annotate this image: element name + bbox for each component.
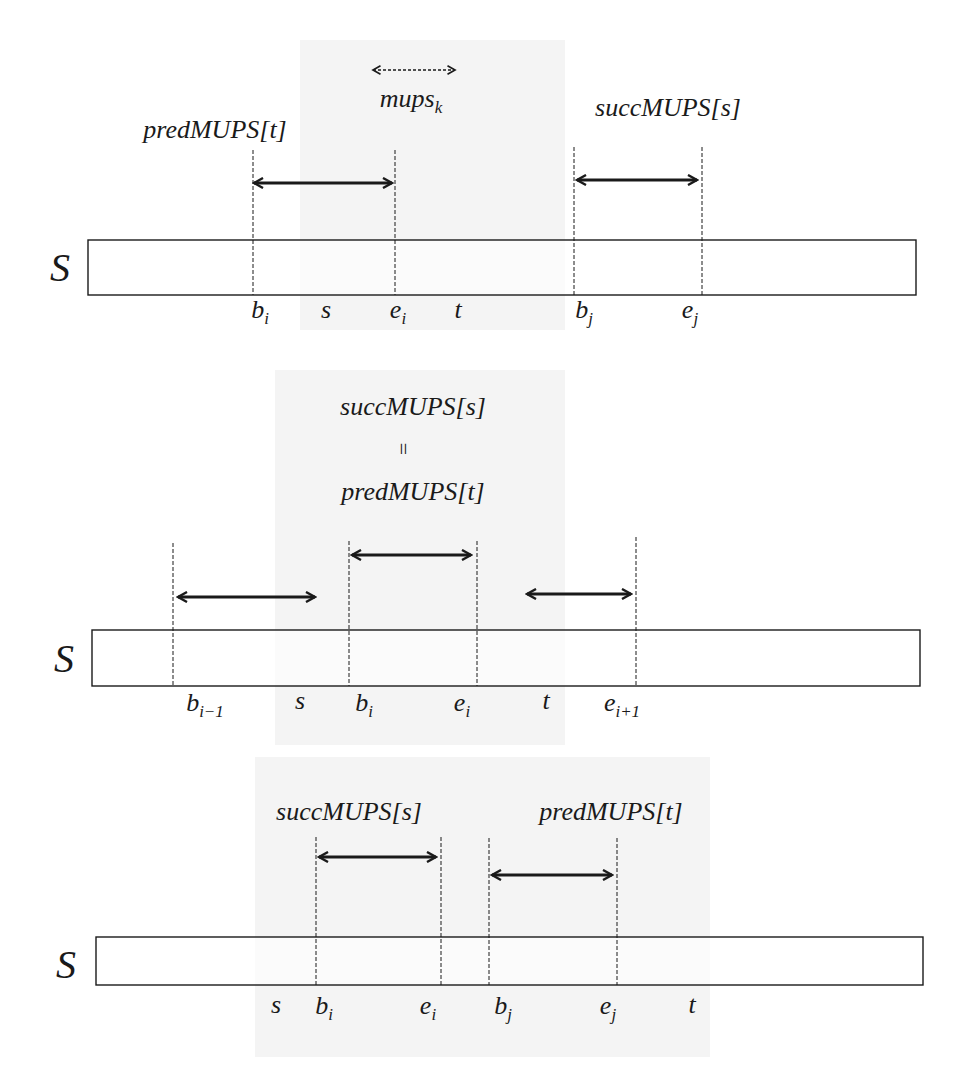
position-label-subscript: i <box>401 309 406 328</box>
position-label: t <box>688 992 695 1018</box>
position-label-text: e <box>604 688 616 717</box>
position-label-text: s <box>295 686 305 715</box>
position-label: ei+1 <box>604 690 640 720</box>
position-label-subscript: j <box>611 1005 616 1024</box>
position-label-text: b <box>315 991 328 1020</box>
position-label: bj <box>494 993 512 1023</box>
position-label-subscript: i <box>264 309 269 328</box>
interval-label: predMUPS[t] <box>539 799 682 825</box>
position-label-text: b <box>575 295 588 324</box>
position-label-subscript: i+1 <box>615 702 640 721</box>
position-label-text: b <box>494 991 507 1020</box>
string-s-label-text: S <box>50 245 70 290</box>
interval-label-text: predMUPS[t] <box>539 797 682 826</box>
position-label-text: e <box>682 295 694 324</box>
position-label-text: e <box>600 991 612 1020</box>
position-label-text: b <box>251 295 264 324</box>
position-label-text: b <box>186 688 199 717</box>
position-label: t <box>542 688 549 714</box>
position-label-subscript: i <box>465 702 470 721</box>
interval-label: predMUPS[t] <box>341 479 484 505</box>
position-label-text: s <box>321 295 331 324</box>
interval-label-text: predMUPS[t] <box>341 477 484 506</box>
position-label: bi <box>251 297 269 327</box>
position-label-text: s <box>271 990 281 1019</box>
figure: SpredMUPS[t]mupsksuccMUPS[s]biseitbjejSs… <box>0 0 974 1081</box>
position-label-subscript: i <box>328 1005 333 1024</box>
panel-2 <box>92 537 920 686</box>
position-label: bj <box>575 297 593 327</box>
string-s-label: S <box>50 248 70 288</box>
position-label-subscript: j <box>588 309 593 328</box>
position-label-subscript: j <box>693 309 698 328</box>
interval-label: predMUPS[t] <box>143 117 286 143</box>
position-label-text: t <box>542 686 549 715</box>
string-s-label-text: S <box>56 942 76 987</box>
position-label-text: b <box>355 688 368 717</box>
interval-label: succMUPS[s] <box>340 394 486 420</box>
position-label: ej <box>682 297 698 327</box>
string-bar <box>96 937 923 985</box>
position-label: s <box>271 992 281 1018</box>
string-s-label: S <box>56 945 76 985</box>
position-label: ei <box>390 297 406 327</box>
position-label-subscript: i <box>431 1005 436 1024</box>
interval-label: succMUPS[s] <box>595 95 741 121</box>
interval-label-text: predMUPS[t] <box>143 115 286 144</box>
position-label-text: t <box>688 990 695 1019</box>
position-label: ej <box>600 993 616 1023</box>
position-label-subscript: j <box>507 1005 512 1024</box>
position-label: bi <box>315 993 333 1023</box>
position-label-subscript: i <box>368 702 373 721</box>
interval-label-text: mups <box>380 84 435 113</box>
interval-label: mupsk <box>380 86 442 116</box>
position-label: bi <box>355 690 373 720</box>
string-bar <box>88 240 916 295</box>
interval-label-text: succMUPS[s] <box>276 797 422 826</box>
interval-label-text: succMUPS[s] <box>340 392 486 421</box>
position-label-text: e <box>454 688 466 717</box>
string-s-label: S <box>54 639 74 679</box>
panel-1 <box>88 70 916 295</box>
position-label: t <box>454 297 461 323</box>
position-label-text: t <box>454 295 461 324</box>
position-label-text: e <box>390 295 402 324</box>
position-label-subscript: i−1 <box>199 702 224 721</box>
diagram-lines <box>0 0 974 1081</box>
equals-sign: = <box>392 443 414 455</box>
position-label: bi−1 <box>186 690 224 720</box>
interval-label-text: succMUPS[s] <box>595 93 741 122</box>
interval-label-subscript: k <box>435 98 443 117</box>
position-label-text: e <box>420 991 432 1020</box>
string-bar <box>92 630 920 686</box>
position-label: ei <box>420 993 436 1023</box>
position-label: s <box>321 297 331 323</box>
panel-3 <box>96 837 923 985</box>
position-label: ei <box>454 690 470 720</box>
interval-label: succMUPS[s] <box>276 799 422 825</box>
string-s-label-text: S <box>54 636 74 681</box>
position-label: s <box>295 688 305 714</box>
